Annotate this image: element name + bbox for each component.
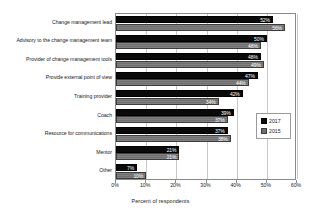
category-label-1: Advisory to the change management team bbox=[0, 37, 112, 44]
bar-2015-0: 56% bbox=[116, 24, 285, 31]
x-tick-label-5: 50% bbox=[261, 182, 271, 189]
bar-2015-5: 37% bbox=[116, 116, 228, 123]
legend-label: 2017 bbox=[269, 118, 281, 124]
bar-2017-8: 7% bbox=[116, 164, 137, 171]
bar-2015-2: 49% bbox=[116, 61, 264, 68]
bar-2017-1: 50% bbox=[116, 35, 267, 42]
bar-value-label: 21% bbox=[167, 153, 177, 161]
category-label-5: Coach bbox=[0, 112, 112, 119]
bar-2017-7: 21% bbox=[116, 146, 179, 153]
bar-value-label: 10% bbox=[133, 172, 143, 180]
legend-item-2017[interactable]: 2017 bbox=[261, 117, 287, 125]
bar-2017-2: 48% bbox=[116, 53, 261, 60]
x-tick-label-1: 10% bbox=[140, 182, 150, 189]
x-tick-label-3: 30% bbox=[200, 182, 210, 189]
legend-label: 2015 bbox=[269, 128, 281, 134]
category-label-4: Training provider bbox=[0, 93, 112, 100]
bar-2017-3: 47% bbox=[116, 72, 258, 79]
bar-2017-6: 37% bbox=[116, 127, 228, 134]
legend[interactable]: 20172015 bbox=[256, 113, 291, 139]
gridline bbox=[267, 14, 268, 179]
plot-area: 52%56%50%48%48%49%47%44%42%34%39%37%37%3… bbox=[115, 13, 296, 180]
bar-2015-6: 38% bbox=[116, 135, 231, 142]
bar-2015-1: 48% bbox=[116, 42, 261, 49]
bar-value-label: 44% bbox=[236, 79, 246, 87]
category-label-8: Other bbox=[0, 167, 112, 174]
bar-value-label: 42% bbox=[230, 90, 240, 98]
category-label-0: Change management lead bbox=[0, 19, 112, 26]
legend-swatch-icon bbox=[261, 128, 267, 134]
legend-item-2015[interactable]: 2015 bbox=[261, 127, 287, 135]
category-label-7: Mentor bbox=[0, 149, 112, 156]
x-tick-label-4: 40% bbox=[230, 182, 240, 189]
legend-swatch-icon bbox=[261, 118, 267, 124]
category-label-6: Resource for communications bbox=[0, 130, 112, 137]
bar-chart: Change management leadAdvisory to the ch… bbox=[0, 0, 321, 216]
bar-2017-4: 42% bbox=[116, 90, 243, 97]
bar-2017-5: 39% bbox=[116, 109, 234, 116]
bar-2017-0: 52% bbox=[116, 16, 273, 23]
category-label-3: Provide external point of view bbox=[0, 74, 112, 81]
x-tick-label-2: 20% bbox=[170, 182, 180, 189]
category-label-2: Provider of change management tools bbox=[0, 56, 112, 63]
gridline bbox=[297, 14, 298, 179]
x-axis-title: Percent of respondents bbox=[0, 198, 321, 204]
bar-2015-7: 21% bbox=[116, 153, 179, 160]
bar-2015-8: 10% bbox=[116, 172, 146, 179]
bar-value-label: 49% bbox=[251, 61, 261, 69]
bar-value-label: 56% bbox=[272, 24, 282, 32]
bar-value-label: 37% bbox=[215, 116, 225, 124]
bar-2015-4: 34% bbox=[116, 98, 219, 105]
bar-value-label: 48% bbox=[248, 42, 258, 50]
bar-2015-3: 44% bbox=[116, 79, 249, 86]
bar-value-label: 38% bbox=[218, 135, 228, 143]
bar-value-label: 34% bbox=[206, 98, 216, 106]
x-tick-label-6: 60% bbox=[291, 182, 301, 189]
x-tick-label-0: 0% bbox=[111, 182, 119, 189]
